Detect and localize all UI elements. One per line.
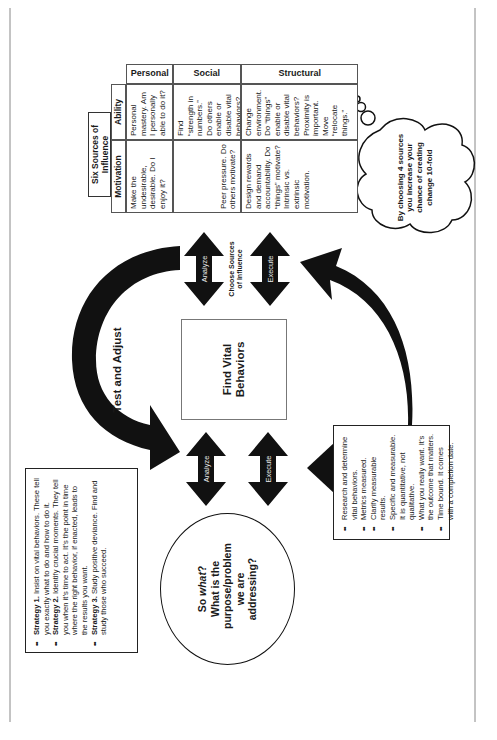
strategy-label: Strategy 1. [32, 596, 41, 635]
purpose-question: What is the purpose/problem we are addre… [209, 543, 259, 629]
cell-social-motivation: Peer pressure. Do others motivate? [173, 140, 241, 213]
purpose-circle-text: So what? What is the purpose/problem we … [196, 549, 259, 629]
execute-bottom-label: Execute [261, 446, 275, 492]
cloud-text-content: By choosing 4 sources you increase your … [396, 130, 434, 225]
cell-text: Peer pressure. Do others motivate? [219, 144, 238, 209]
cell-text: Make the undesirable, desirable. Do I en… [129, 157, 167, 209]
analyze-label-text: Analyze [200, 256, 209, 283]
execute-label-text: Execute [264, 455, 273, 482]
ability-header-text: Ability [114, 99, 124, 125]
strategy-label: Strategy 3. [90, 596, 99, 635]
strategy-item: Strategy 2. Identify crucial moments. Th… [51, 475, 89, 646]
measures-list: Research and determine vital behaviors. … [340, 432, 455, 531]
measure-item: Time bound. It comes with a completion d… [436, 432, 455, 531]
analyze-label-text: Analyze [202, 456, 211, 483]
execute-top-label: Execute [263, 246, 277, 292]
six-sources-title: Six Sources of Influence [88, 112, 111, 197]
choose-sources-label: Choose Sources of Influence [226, 238, 246, 300]
strategies-box: Strategy 1. Insist on vital behaviors. T… [25, 468, 138, 653]
analyze-top-label: Analyze [197, 246, 211, 292]
what-emphasis: what [196, 572, 208, 596]
measure-item: Research and determine vital behaviors. [340, 432, 359, 531]
row-label-structural: Structural [241, 64, 358, 84]
column-header-motivation: Motivation [111, 140, 126, 213]
question-mark: ? [196, 566, 208, 572]
strategies-list: Strategy 1. Insist on vital behaviors. T… [32, 475, 109, 646]
so-prefix: So [196, 596, 208, 612]
cell-personal-motivation: Make the undesirable, desirable. Do I en… [126, 140, 173, 213]
execute-label-text: Execute [266, 255, 275, 282]
purpose-circle: So what? What is the purpose/problem we … [160, 513, 295, 665]
measure-item: Metrics measured. [359, 432, 369, 531]
measure-item: Specific and measurable. It is quantitat… [388, 432, 417, 531]
cell-text: Personal mastery. Am I personally able t… [129, 90, 167, 136]
strategy-item: Strategy 3. Study positive deviance. Fin… [90, 475, 109, 646]
strategy-label: Strategy 2. [51, 596, 60, 635]
measure-item: What you really want. It’s the outcome t… [417, 432, 436, 531]
cell-text: Design rewards and demand accountability… [244, 145, 311, 209]
cell-social-ability: Find “strength in numbers.” Do others en… [173, 84, 241, 140]
cloud-text: By choosing 4 sources you increase your … [370, 130, 460, 225]
cell-structural-ability: Change environment. Do “things” enable o… [241, 84, 358, 140]
column-header-ability: Ability [111, 84, 126, 140]
cell-text: Find “strength in numbers.” Do others en… [176, 94, 241, 136]
measure-item: Clarify measurable results. [369, 432, 388, 531]
test-and-adjust-label: Test and Adjust [108, 320, 126, 420]
choose-sources-text: Choose Sources of Influence [228, 238, 245, 300]
row-label-personal: Personal [126, 64, 173, 84]
motivation-header-text: Motivation [114, 155, 124, 198]
row-label-text: Social [194, 69, 221, 79]
test-and-adjust-text: Test and Adjust [111, 328, 123, 413]
analyze-bottom-label: Analyze [199, 446, 213, 492]
find-vital-behaviors-text: Find Vital Behaviors [221, 340, 247, 400]
cell-text: Change environment. Do “things” enable o… [244, 90, 349, 136]
rotated-page: Six Sources of Influence Motivation Abil… [0, 0, 497, 740]
row-label-text: Personal [130, 69, 168, 79]
measures-box: Research and determine vital behaviors. … [333, 425, 450, 540]
cell-personal-ability: Personal mastery. Am I personally able t… [126, 84, 173, 140]
six-sources-title-text: Six Sources of Influence [90, 113, 110, 196]
row-label-text: Structural [278, 69, 321, 79]
find-vital-behaviors-box: Find Vital Behaviors [181, 319, 287, 420]
row-label-social: Social [173, 64, 241, 84]
cell-structural-motivation: Design rewards and demand accountability… [241, 140, 358, 213]
strategy-item: Strategy 1. Insist on vital behaviors. T… [32, 475, 51, 646]
